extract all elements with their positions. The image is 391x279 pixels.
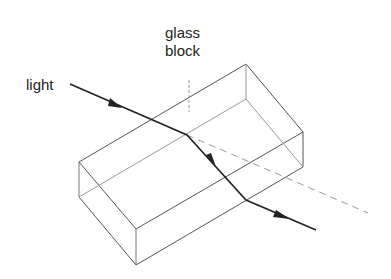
arrow-icon <box>108 98 290 219</box>
light-label: light <box>26 76 54 93</box>
glass-label-line1: glass <box>165 24 200 41</box>
glass-block <box>79 64 303 265</box>
refraction-diagram: light glass block <box>0 0 391 279</box>
light-ray <box>70 84 316 230</box>
glass-label-line2: block <box>165 42 200 59</box>
